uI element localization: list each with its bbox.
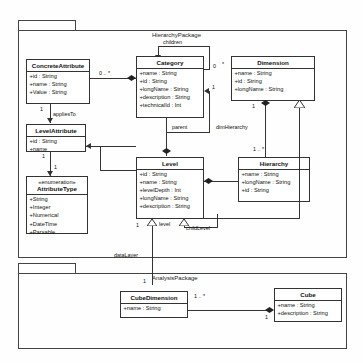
class-name-level-attribute: LevelAttribute	[27, 125, 85, 137]
attribute-row: +id : String	[140, 171, 202, 179]
uml-class-diagram: HierarchyPackage AnalysisPackage childre…	[0, 0, 363, 363]
attrs-level: +id : String +name : String +levelDepth …	[137, 170, 203, 213]
analysis-package-title: AnalysisPackage	[152, 275, 198, 281]
levelattr-level-line2	[100, 170, 136, 171]
multiplicity-enum-one: 1	[54, 164, 57, 170]
attribute-row: +longName : String	[235, 86, 313, 94]
dimension-level-line-h	[204, 218, 300, 219]
attribute-row: +Integer	[30, 204, 86, 212]
generalization-triangle-dimension	[294, 100, 305, 108]
multiplicity-category-parent: 1	[212, 84, 215, 90]
attribute-row: +longName : String	[140, 86, 202, 94]
multiplicity-hierarchy-many: 1 .. *	[253, 146, 264, 152]
multiplicity-dimension-one: 1	[252, 103, 255, 109]
class-category: Category +name : String +id : String +lo…	[136, 56, 204, 118]
levelattr-level-vert	[100, 146, 101, 171]
attribute-row: +longName : String	[140, 195, 202, 203]
class-concrete-attribute: ConcreteAttribute +id : String +name : S…	[26, 59, 90, 104]
class-name-text: AttributeType	[37, 185, 77, 192]
applies-to-role-label: appliesTo	[53, 111, 76, 117]
attribute-row: +DateTime	[30, 221, 86, 229]
attrs-cube-dimension: +name : String	[121, 304, 187, 315]
attrs-cube: +name : String +description : String	[275, 301, 341, 320]
attribute-row: +description : String	[140, 94, 202, 102]
attribute-row: +Parsable	[30, 229, 86, 237]
attribute-row: +name : String	[235, 70, 313, 78]
datalayer-line	[152, 233, 153, 285]
attribute-row: +Value : String	[30, 89, 88, 97]
class-level-attribute: LevelAttribute +id : String +name	[26, 124, 86, 152]
attribute-row: +id : String	[140, 78, 202, 86]
parent-assoc-vertical	[209, 91, 210, 133]
attribute-row: +Numerical	[30, 212, 86, 220]
multiplicity-cubedimension-one: 1	[143, 278, 146, 284]
multiplicity-cubedimension-many: 1 .. *	[194, 293, 205, 299]
class-name-cube: Cube	[275, 289, 341, 301]
multiplicity-concreteattr-one: 1	[40, 106, 43, 112]
levelattr-level-line	[86, 146, 136, 147]
class-dimension: Dimension +name : String +id : String +l…	[231, 56, 315, 101]
attribute-row: +description : String	[140, 203, 202, 211]
attribute-row: +levelDepth : Int	[140, 187, 202, 195]
class-name-concrete-attribute: ConcreteAttribute	[27, 60, 89, 72]
multiplicity-levelattr-one: 1	[42, 153, 45, 159]
class-name-cube-dimension: CubeDimension	[121, 292, 187, 304]
attribute-row: +name : String	[124, 305, 186, 313]
parent-role-label: parent	[172, 124, 187, 130]
attribute-row: +id : String	[30, 138, 84, 146]
children-role-label: children	[163, 39, 182, 45]
attribute-row: +name : String	[140, 70, 202, 78]
class-cube-dimension: CubeDimension +name : String	[120, 291, 188, 318]
children-loop-right	[209, 46, 210, 70]
level-role-triangle	[147, 219, 157, 226]
attribute-row: +id : String	[242, 187, 308, 195]
attribute-row: +name : String	[242, 171, 308, 179]
attribute-row: +name : String	[140, 179, 202, 187]
level-self-outer-vert	[217, 214, 218, 228]
parent-arrowhead	[204, 88, 209, 94]
class-attribute-type: «enumeration» AttributeType +String +Int…	[26, 176, 88, 234]
attribute-row: +name : String	[278, 302, 340, 310]
dim-hierarchy-role-label: dimHierarchy	[216, 124, 248, 130]
child-level-role-label: childLevel	[186, 225, 210, 231]
multiplicity-level-one: 1	[136, 222, 139, 228]
stereotype-label: «enumeration»	[29, 179, 85, 186]
multiplicity-concreteattr-category: 0 .. *	[99, 70, 110, 76]
attribute-row: +id : String	[235, 78, 313, 86]
attrs-concrete-attribute: +id : String +name : String +Value : Str…	[27, 72, 89, 99]
levelattr-level-arrowhead	[86, 143, 91, 149]
data-layer-role-label: dataLayer	[114, 252, 138, 258]
attrs-dimension: +name : String +id : String +longName : …	[232, 69, 314, 96]
attrs-category: +name : String +id : String +longName : …	[137, 69, 203, 112]
appliesto-arrowhead	[47, 118, 53, 123]
parent-assoc-horizontal	[166, 132, 210, 133]
dimension-hierarchy-line	[265, 101, 266, 157]
attribute-row: +id : String	[30, 73, 88, 81]
attrs-level-attribute: +id : String +name	[27, 137, 85, 156]
attribute-row: +description : String	[278, 310, 340, 318]
class-name-level: Level	[137, 158, 203, 170]
cubedimension-cube-line	[188, 310, 272, 311]
children-multiplicity-star: *	[222, 61, 224, 67]
attribute-row: +technicalId : Int	[140, 102, 202, 110]
class-name-attribute-type: «enumeration» AttributeType	[27, 177, 87, 195]
attribute-row: +name	[30, 146, 84, 154]
attribute-row: +longName : String	[242, 179, 308, 187]
children-multiplicity-zero: 0	[213, 63, 216, 69]
attrs-attribute-type: +String +Integer +Numerical +DateTime +P…	[27, 195, 87, 238]
class-name-dimension: Dimension	[232, 57, 314, 69]
dimension-level-line	[299, 106, 300, 219]
class-level: Level +id : String +name : String +level…	[136, 157, 204, 219]
children-loop-top	[158, 46, 210, 47]
attribute-row: +name : String	[30, 81, 88, 89]
hierarchy-package-title: HierarchyPackage	[152, 32, 201, 38]
attribute-row: +String	[30, 196, 86, 204]
class-name-category: Category	[137, 57, 203, 69]
class-cube: Cube +name : String +description : Strin…	[274, 288, 342, 322]
multiplicity-cube-one: 1	[265, 314, 268, 320]
level-role-label: level	[159, 221, 170, 227]
